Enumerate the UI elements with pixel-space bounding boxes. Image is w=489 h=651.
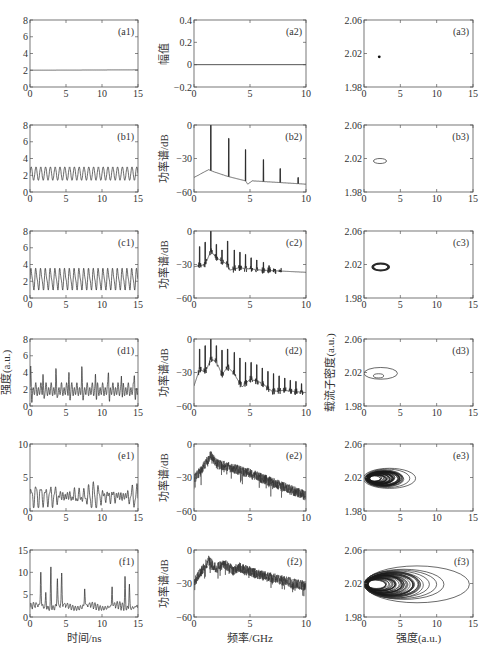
- panel-label: (d1): [117, 345, 134, 357]
- orbit-path: [364, 367, 397, 379]
- intensity-trace: [30, 268, 138, 290]
- x-tick-label: 15: [133, 618, 143, 629]
- x-tick-label: 5: [398, 299, 403, 310]
- subplot-f1: 051015051015(f1)时间/ns: [18, 545, 143, 645]
- x-tick-label: 5: [64, 88, 69, 99]
- plot-area-c3: [372, 263, 389, 271]
- subplot-a1: 05101502468(a1): [23, 15, 143, 100]
- y-axis-label: 强度(a.u.): [0, 350, 13, 396]
- x-tick-label: 15: [468, 618, 478, 629]
- y-tick-label: 0: [23, 401, 28, 412]
- y-tick-label: 1.98: [345, 612, 363, 623]
- y-tick-label: 4: [23, 367, 28, 378]
- y-tick-label: 4: [23, 153, 28, 164]
- y-tick-label: 0: [187, 59, 192, 70]
- plot-area-f3: [364, 566, 469, 603]
- subplot-b2: 0510−60−300(b2)功率谱/dB: [157, 120, 311, 205]
- x-tick-label: 0: [28, 299, 33, 310]
- y-tick-label: 2.02: [345, 472, 363, 483]
- x-tick-label: 10: [97, 193, 107, 204]
- x-tick-label: 5: [64, 618, 69, 629]
- panel-label: (d3): [452, 345, 469, 357]
- x-tick-label: 10: [432, 193, 442, 204]
- intensity-trace: [30, 167, 138, 180]
- intensity-trace: [30, 70, 138, 71]
- x-tick-label: 5: [398, 512, 403, 523]
- plot-area-e3: [363, 468, 415, 488]
- y-tick-label: 0: [23, 293, 28, 304]
- y-tick-label: 1.98: [345, 293, 363, 304]
- y-tick-label: 1.98: [345, 401, 363, 412]
- x-tick-label: 5: [64, 512, 69, 523]
- x-tick-label: 0: [192, 193, 197, 204]
- orbit-path: [373, 159, 386, 164]
- x-tick-label: 10: [301, 407, 311, 418]
- panel-label: (d2): [285, 345, 302, 357]
- x-tick-label: 5: [398, 193, 403, 204]
- subplot-a3: 0510151.982.022.06(a3): [345, 15, 479, 100]
- plot-area-a1: [30, 70, 138, 71]
- panel-label: (a3): [453, 26, 469, 38]
- y-tick-label: 0: [187, 545, 192, 556]
- subplot-a2: 0510−0.200.20.4(a2)幅值: [158, 15, 311, 100]
- plot-area-c1: [30, 268, 138, 290]
- x-tick-label: 5: [398, 88, 403, 99]
- y-tick-label: 6: [23, 242, 28, 253]
- y-tick-label: 2.02: [345, 48, 363, 59]
- y-tick-label: 2.02: [345, 259, 363, 270]
- y-tick-label: 1.98: [345, 187, 363, 198]
- panel-label: (e3): [453, 450, 469, 462]
- x-tick-label: 5: [64, 407, 69, 418]
- y-tick-label: −60: [176, 293, 192, 304]
- y-tick-label: 8: [23, 120, 28, 131]
- panel-label: (e2): [286, 450, 302, 462]
- y-axis-label: 功率谱/dB: [157, 240, 170, 289]
- y-tick-label: −60: [176, 506, 192, 517]
- y-tick-label: 0: [23, 82, 28, 93]
- x-tick-label: 10: [432, 299, 442, 310]
- x-tick-label: 10: [301, 88, 311, 99]
- panel-label: (c1): [118, 237, 134, 249]
- y-tick-label: 0.2: [180, 37, 193, 48]
- x-tick-label: 0: [362, 512, 367, 523]
- y-tick-label: −30: [176, 578, 192, 589]
- panel-label: (f2): [287, 556, 302, 568]
- x-tick-label: 0: [28, 193, 33, 204]
- plot-area-b3: [373, 159, 386, 164]
- figure-canvas: 05101502468(a1)0510−0.200.20.4(a2)幅值0510…: [0, 0, 489, 651]
- y-tick-label: 2.06: [345, 226, 363, 237]
- x-tick-label: 15: [133, 407, 143, 418]
- subplot-e3: 0510151.982.022.06(e3): [345, 439, 479, 524]
- x-tick-label: 15: [468, 407, 478, 418]
- y-tick-label: 8: [23, 15, 28, 26]
- subplot-d2: 0510−60−300(d2)功率谱/dB: [157, 334, 311, 419]
- y-tick-label: −30: [176, 367, 192, 378]
- plot-area-d3: [364, 367, 397, 379]
- x-tick-label: 0: [192, 512, 197, 523]
- x-tick-label: 10: [432, 618, 442, 629]
- subplot-b3: 0510151.982.022.06(b3): [345, 120, 479, 205]
- subplot-f2: 0510−60−300(f2)功率谱/dB频率/GHz: [157, 545, 311, 645]
- y-tick-label: 2.02: [345, 367, 363, 378]
- y-axis-label: 幅值: [158, 43, 170, 65]
- x-tick-label: 10: [97, 618, 107, 629]
- x-tick-label: 0: [192, 299, 197, 310]
- panel-label: (f3): [454, 556, 469, 568]
- orbit-path: [373, 374, 383, 378]
- y-tick-label: 0: [23, 612, 28, 623]
- subplot-c1: 05101502468(c1): [23, 226, 143, 311]
- x-tick-label: 0: [28, 618, 33, 629]
- x-tick-label: 5: [64, 299, 69, 310]
- panel-label: (c3): [453, 237, 469, 249]
- x-tick-label: 10: [301, 512, 311, 523]
- y-tick-label: 15: [18, 545, 28, 556]
- y-tick-label: 2.06: [345, 545, 363, 556]
- x-tick-label: 15: [468, 512, 478, 523]
- y-tick-label: 0: [187, 226, 192, 237]
- orbit-path: [373, 264, 388, 270]
- x-tick-label: 10: [432, 512, 442, 523]
- x-axis-label: 频率/GHz: [227, 631, 273, 644]
- y-tick-label: 5: [23, 472, 28, 483]
- panel-label: (b1): [117, 131, 134, 143]
- subplot-f3: 0510151.982.022.06(f3)强度(a.u.): [345, 545, 479, 646]
